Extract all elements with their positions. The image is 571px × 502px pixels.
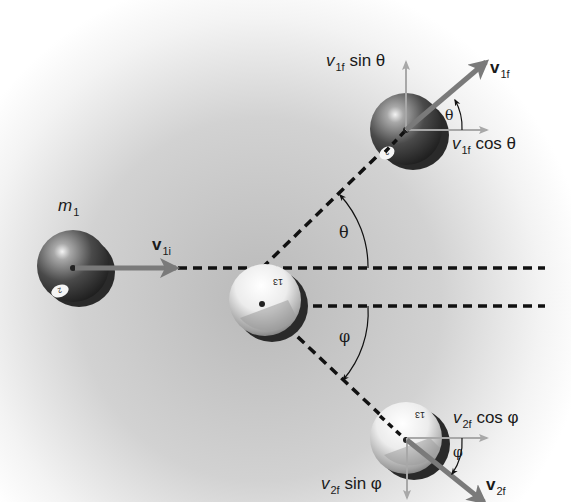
v2f-sin-rest: sin φ: [340, 474, 382, 493]
v1i-label: v1i: [152, 236, 171, 253]
theta-small-label: θ: [445, 108, 453, 122]
v2f-cos-phi-label: v2f cos φ: [453, 409, 519, 426]
mass-label-m1: m1: [58, 197, 79, 214]
v2f-cos-sub: 2f: [463, 418, 472, 430]
v2f-sin-sub: 2f: [331, 484, 340, 496]
svg-text:13: 13: [273, 277, 283, 287]
v2f-label: v2f: [486, 476, 506, 493]
v1f-cos-sub: 1f: [462, 144, 471, 156]
v1f-cos-rest: cos θ: [471, 134, 516, 153]
mass-label-sub: 1: [73, 206, 79, 218]
v1f-base: v: [490, 58, 499, 77]
v2f-sin-base: v: [321, 474, 330, 493]
svg-text:13: 13: [415, 410, 425, 420]
v1f-label: v1f: [490, 59, 510, 76]
v1f-sin-sub: 1f: [336, 61, 345, 73]
v1f-sin-base: v: [326, 51, 335, 70]
v2f-cos-rest: cos φ: [472, 408, 519, 427]
theta-angle-label: θ: [339, 225, 349, 241]
v2f-sub: 2f: [496, 485, 505, 497]
v2f-cos-base: v: [453, 408, 462, 427]
v1f-cos-theta-label: v1f cos θ: [452, 135, 516, 152]
phi-small-label: φ: [453, 445, 463, 459]
v1i-base: v: [152, 235, 161, 254]
v2f-base: v: [486, 475, 495, 494]
v1f-sin-rest: sin θ: [345, 51, 386, 70]
collision-diagram: 2 13 2 13: [0, 0, 571, 502]
mass-label-base: m: [58, 196, 72, 215]
v1f-sin-theta-label: v1f sin θ: [326, 52, 385, 69]
v2f-sin-phi-label: v2f sin φ: [321, 475, 382, 492]
v1i-sub: 1i: [162, 245, 171, 257]
v1f-cos-base: v: [452, 134, 461, 153]
phi-angle-label: φ: [339, 329, 350, 345]
v1f-sub: 1f: [500, 68, 509, 80]
